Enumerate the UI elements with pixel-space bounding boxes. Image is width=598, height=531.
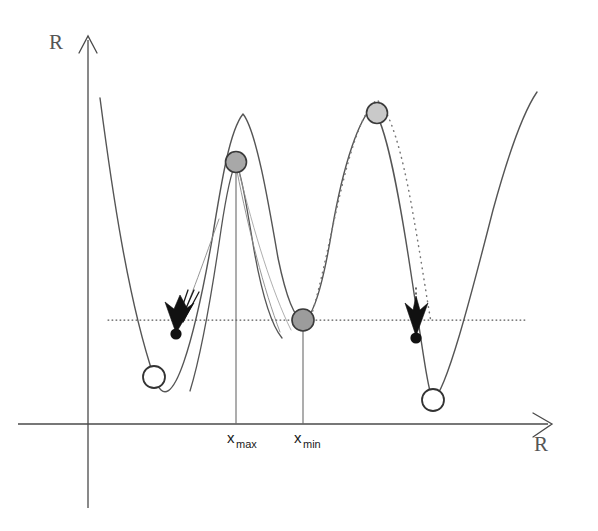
descent-arrow-right-head-icon bbox=[405, 296, 428, 336]
peak-marker-right bbox=[367, 103, 388, 124]
energy-landscape-diagram: R R bbox=[0, 0, 598, 531]
outer-potential-curve bbox=[100, 92, 537, 400]
transition-dot-right bbox=[410, 332, 421, 343]
transition-dot-left bbox=[170, 328, 181, 339]
markers-group bbox=[143, 103, 444, 412]
tick-label-xmax-base: x bbox=[227, 429, 235, 446]
axes-group bbox=[18, 36, 552, 508]
valley-marker-center bbox=[292, 309, 314, 331]
figure-root: R R bbox=[0, 0, 598, 531]
inner-curve-connector-b bbox=[239, 172, 291, 330]
inner-curve-connector-a bbox=[237, 171, 280, 332]
x-axis-label: R bbox=[534, 432, 548, 456]
tick-label-xmax-sub: max bbox=[236, 438, 257, 450]
y-axis-label: R bbox=[49, 30, 63, 54]
descent-arrow-right bbox=[405, 296, 428, 336]
tick-label-xmin-base: x bbox=[294, 429, 302, 446]
tick-label-xmin-sub: min bbox=[303, 438, 321, 450]
peak-marker-mid bbox=[226, 152, 247, 173]
potential-curves-group bbox=[100, 92, 537, 400]
tick-label-xmax: x max bbox=[227, 429, 257, 450]
minimum-marker-right bbox=[422, 389, 444, 411]
minimum-marker-left bbox=[143, 366, 165, 388]
tick-label-xmin: x min bbox=[294, 429, 321, 450]
